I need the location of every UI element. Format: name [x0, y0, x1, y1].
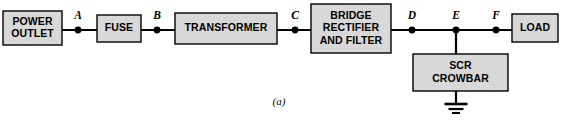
- block-label-scr-crowbar-line-1: CROWBAR: [432, 72, 489, 84]
- block-label-bridge-rectifier-and-filter-line-0: BRIDGE: [330, 9, 371, 21]
- block-fuse: FUSE: [97, 15, 141, 42]
- block-layer: POWEROUTLETFUSETRANSFORMERBRIDGERECTIFIE…: [3, 4, 558, 91]
- node-c: C: [291, 9, 299, 33]
- ground-layer: [445, 104, 468, 113]
- node-c-dot: [292, 27, 299, 34]
- block-label-power-outlet-line-0: POWER: [12, 15, 52, 27]
- block-scr-crowbar: SCRCROWBAR: [413, 54, 508, 91]
- node-d-label: D: [407, 9, 417, 21]
- node-a-dot: [75, 27, 82, 34]
- node-b-label: B: [152, 9, 161, 21]
- block-label-bridge-rectifier-and-filter-line-1: RECTIFIER: [323, 21, 380, 33]
- block-load: LOAD: [512, 14, 558, 42]
- node-d-dot: [409, 27, 416, 34]
- node-a-label: A: [73, 9, 82, 21]
- block-label-bridge-rectifier-and-filter-line-2: AND FILTER: [320, 34, 383, 46]
- block-bridge-rectifier-and-filter: BRIDGERECTIFIERAND FILTER: [311, 4, 391, 53]
- block-transformer: TRANSFORMER: [175, 13, 277, 44]
- block-label-load-line-0: LOAD: [520, 21, 550, 33]
- block-power-outlet: POWEROUTLET: [3, 11, 62, 45]
- block-label-scr-crowbar-line-0: SCR: [449, 59, 472, 71]
- block-label-power-outlet-line-1: OUTLET: [11, 27, 54, 39]
- node-b-dot: [154, 27, 161, 34]
- node-c-label: C: [291, 9, 299, 21]
- node-e-label: E: [451, 9, 460, 21]
- node-f-label: F: [491, 9, 500, 21]
- node-e-dot: [453, 27, 460, 34]
- node-f-dot: [493, 27, 500, 34]
- block-label-transformer-line-0: TRANSFORMER: [185, 21, 268, 33]
- block-diagram-figure: POWEROUTLETFUSETRANSFORMERBRIDGERECTIFIE…: [0, 0, 561, 121]
- block-label-fuse-line-0: FUSE: [105, 21, 133, 33]
- ground-symbol: [445, 104, 468, 113]
- figure-caption: (a): [273, 95, 286, 108]
- block-diagram-canvas: POWEROUTLETFUSETRANSFORMERBRIDGERECTIFIE…: [0, 0, 561, 121]
